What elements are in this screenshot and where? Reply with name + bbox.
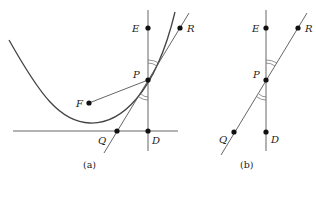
label-d: D: [151, 135, 160, 146]
caption-b: (b): [240, 159, 254, 170]
angle-arc-upper-2: [148, 63, 157, 66]
label-f: F: [75, 98, 84, 109]
angle-arc-upper-b-2: [266, 63, 275, 66]
point-r-b: [295, 25, 300, 30]
point-d-b: [263, 129, 268, 134]
point-f: [86, 100, 91, 105]
point-q: [114, 128, 119, 133]
figure-a: E R P F Q D (a): [9, 10, 195, 170]
caption-a: (a): [83, 159, 96, 170]
point-p-b: [263, 77, 268, 82]
angle-arc-lower-b-2: [259, 94, 266, 97]
label-p-b: P: [252, 69, 260, 80]
label-p: P: [132, 69, 140, 80]
point-q-b: [231, 129, 236, 134]
label-e-b: E: [251, 23, 260, 34]
label-r: R: [186, 23, 195, 34]
diagram-canvas: E R P F Q D (a) E R P Q D (b): [0, 0, 316, 200]
angle-arc-lower: [139, 97, 148, 100]
label-r-b: R: [304, 23, 313, 34]
angle-arc-upper: [148, 60, 159, 63]
label-q-b: Q: [219, 134, 227, 145]
label-d-b: D: [270, 134, 279, 145]
point-d: [145, 128, 150, 133]
figure-b: E R P Q D (b): [219, 10, 313, 170]
point-p: [145, 77, 150, 82]
point-e: [145, 25, 150, 30]
focus-segment: [89, 80, 148, 103]
point-r: [177, 25, 182, 30]
point-e-b: [263, 25, 268, 30]
label-q: Q: [98, 135, 106, 146]
angle-arc-lower-b: [257, 97, 266, 100]
angle-arc-upper-b: [266, 60, 277, 63]
angle-arc-lower-2: [141, 94, 148, 97]
label-e: E: [131, 23, 140, 34]
